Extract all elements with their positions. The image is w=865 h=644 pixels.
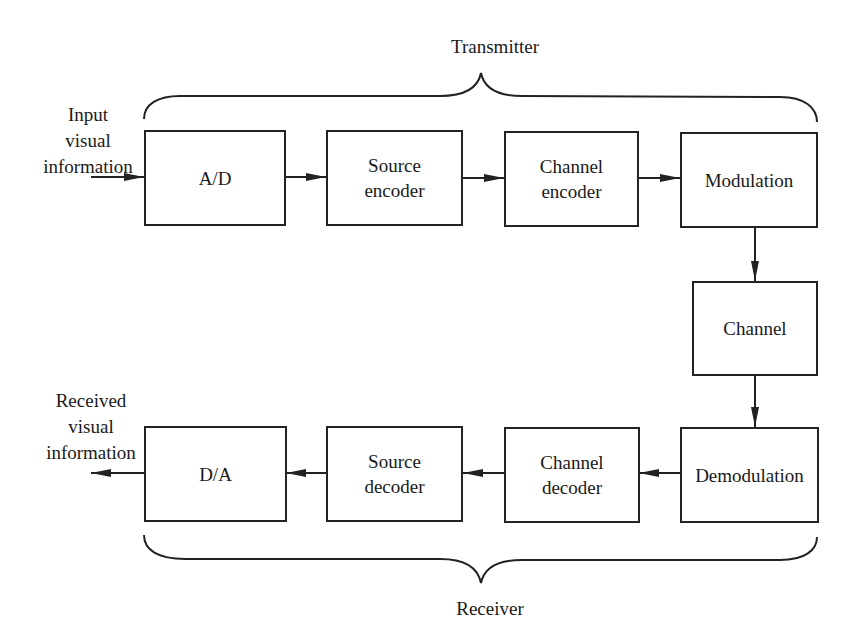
output-label: Received visual information: [36, 388, 146, 466]
block-source-encoder-line-2: encoder: [364, 178, 424, 203]
block-channel-decoder-line-1: Channel: [540, 450, 603, 475]
input-label-line-2: visual: [33, 128, 143, 154]
transmitter-label: Transmitter: [440, 34, 550, 60]
block-source-decoder-line-2: decoder: [364, 474, 424, 499]
block-channel-encoder: Channel encoder: [504, 131, 639, 227]
block-demodulation-label: Demodulation: [695, 463, 804, 488]
receiver-label: Receiver: [440, 596, 540, 622]
block-source-decoder-line-1: Source: [364, 449, 424, 474]
input-label-line-1: Input: [33, 102, 143, 128]
output-label-line-2: visual: [36, 414, 146, 440]
receiver-brace: [144, 535, 817, 583]
block-source-encoder-line-1: Source: [364, 153, 424, 178]
block-channel-decoder-line-2: decoder: [540, 475, 603, 500]
block-demodulation: Demodulation: [680, 427, 819, 523]
block-channel-encoder-line-2: encoder: [540, 179, 603, 204]
block-channel-label: Channel: [723, 316, 786, 341]
block-channel: Channel: [692, 281, 818, 376]
block-ad: A/D: [144, 130, 286, 226]
output-label-line-1: Received: [36, 388, 146, 414]
block-modulation-label: Modulation: [705, 168, 794, 193]
block-source-encoder: Source encoder: [326, 130, 463, 226]
block-da: D/A: [144, 426, 287, 522]
input-label: Input visual information: [33, 102, 143, 180]
block-channel-encoder-line-1: Channel: [540, 154, 603, 179]
block-channel-decoder: Channel decoder: [504, 427, 640, 523]
block-da-label: D/A: [199, 462, 232, 487]
block-ad-label: A/D: [199, 166, 232, 191]
input-label-line-3: information: [33, 154, 143, 180]
block-source-decoder: Source decoder: [326, 426, 463, 522]
transmitter-brace: [144, 73, 817, 122]
block-modulation: Modulation: [680, 132, 818, 228]
output-label-line-3: information: [36, 440, 146, 466]
